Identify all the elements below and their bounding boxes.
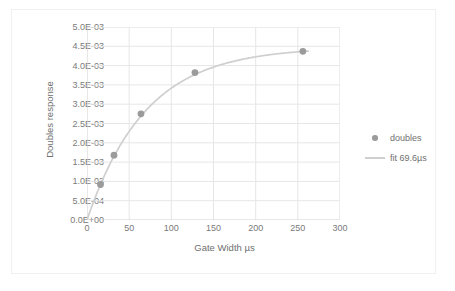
- plot-svg: [87, 27, 340, 220]
- x-tick-label: 50: [106, 223, 152, 233]
- legend-label-fit: fit 69.6µs: [386, 153, 427, 163]
- chart-legend: doubles fit 69.6µs: [364, 128, 436, 168]
- x-axis-title: Gate Width µs: [12, 242, 437, 253]
- x-tick-label: 150: [191, 223, 237, 233]
- grid-lines: [87, 27, 340, 220]
- legend-dot-icon: [364, 135, 386, 141]
- data-point: [111, 152, 118, 159]
- x-tick-label: 300: [317, 223, 363, 233]
- legend-item-fit: fit 69.6µs: [364, 148, 436, 168]
- legend-line-icon: [364, 157, 386, 159]
- data-point: [97, 181, 104, 188]
- legend-label-doubles: doubles: [386, 133, 422, 143]
- fit-curve-line: [87, 51, 308, 220]
- data-point: [299, 48, 306, 55]
- chart-container: Doubles response Gate Width µs 0.0E+005.…: [11, 9, 436, 274]
- data-point: [138, 110, 145, 117]
- x-tick-label: 200: [233, 223, 279, 233]
- x-tick-label: 250: [275, 223, 321, 233]
- x-tick-label: 0: [64, 223, 110, 233]
- x-tick-label: 100: [148, 223, 194, 233]
- legend-item-doubles: doubles: [364, 128, 436, 148]
- data-point-markers: [97, 48, 306, 188]
- data-point: [192, 69, 199, 76]
- plot-area: [87, 27, 340, 220]
